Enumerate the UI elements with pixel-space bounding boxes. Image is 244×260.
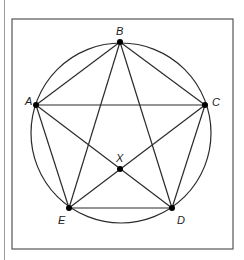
point-d: [169, 205, 175, 211]
point-a: [33, 102, 39, 108]
point-e: [66, 205, 72, 211]
label-e: E: [58, 214, 66, 226]
label-d: D: [177, 214, 185, 226]
segment-ab: [36, 42, 120, 105]
segment-ce: [69, 105, 205, 208]
circumcircle: [31, 43, 211, 223]
pentagram-diagram: A B C D E X: [0, 0, 244, 260]
point-c: [202, 102, 208, 108]
label-b: B: [116, 25, 123, 37]
label-x: X: [115, 152, 124, 164]
segment-ad: [36, 105, 172, 208]
segment-bd: [120, 42, 172, 208]
segment-bc: [120, 42, 205, 105]
label-c: C: [212, 96, 220, 108]
segments-group: [36, 42, 205, 208]
segment-be: [69, 42, 120, 208]
labels-group: A B C D E X: [24, 25, 220, 226]
point-x: [117, 166, 123, 172]
segment-ae: [36, 105, 69, 208]
label-a: A: [24, 95, 32, 107]
points-group: [33, 39, 208, 211]
point-b: [117, 39, 123, 45]
